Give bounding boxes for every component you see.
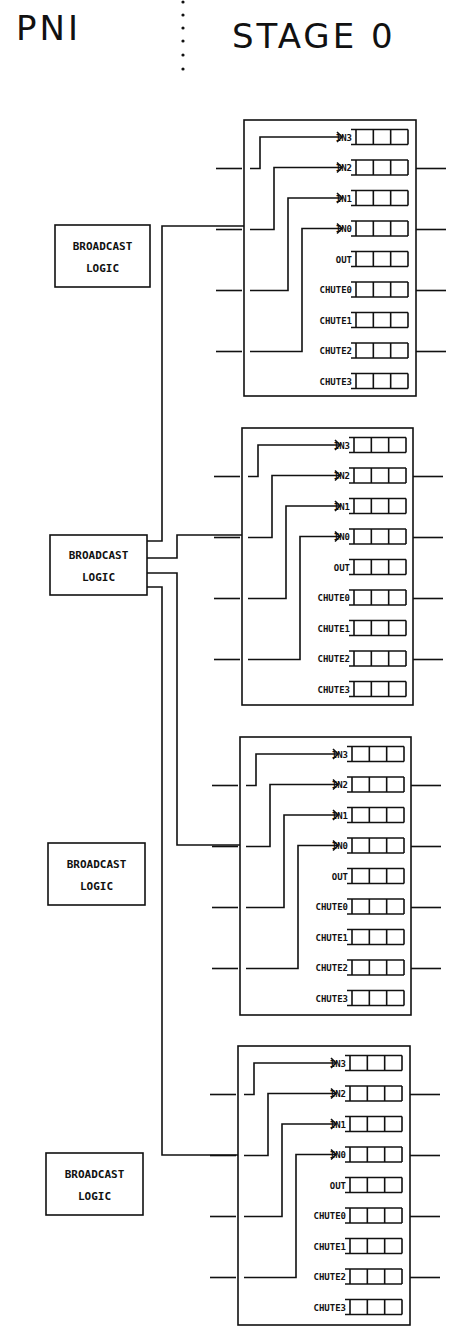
switch-node: IN3IN2IN1IN0OUTCHUTE0CHUTE1CHUTE2CHUTE3	[240, 737, 411, 1015]
broadcast-label-line1: BROADCAST	[73, 240, 133, 253]
queue-out: OUT	[332, 869, 404, 884]
internal-route	[244, 1124, 336, 1217]
broadcast-label-line1: BROADCAST	[67, 858, 127, 871]
queue-in2: IN2	[336, 160, 408, 175]
queue-in0: IN0	[336, 221, 408, 236]
internal-route	[248, 445, 340, 477]
queue-in3: IN3	[330, 1056, 402, 1071]
queue-label: CHUTE0	[315, 902, 348, 912]
queue-label: CHUTE2	[313, 1272, 346, 1282]
broadcast-logic-box: BROADCASTLOGIC	[50, 535, 147, 595]
switch-node: IN3IN2IN1IN0OUTCHUTE0CHUTE1CHUTE2CHUTE3	[244, 120, 416, 396]
queue-chute3: CHUTE3	[317, 682, 406, 697]
switch-node: IN3IN2IN1IN0OUTCHUTE0CHUTE1CHUTE2CHUTE3	[242, 428, 413, 705]
queue-out: OUT	[336, 252, 408, 267]
queue-chute0: CHUTE0	[313, 1208, 402, 1223]
queue-in3: IN3	[336, 130, 408, 145]
queue-chute1: CHUTE1	[319, 313, 408, 328]
internal-route	[248, 506, 340, 599]
queue-chute2: CHUTE2	[317, 651, 406, 666]
queue-label: OUT	[332, 872, 349, 882]
queue-chute2: CHUTE2	[313, 1269, 402, 1284]
queue-in0: IN0	[334, 529, 406, 544]
internal-route	[246, 815, 338, 908]
queue-in2: IN2	[330, 1086, 402, 1101]
queue-label: CHUTE0	[313, 1211, 346, 1221]
network-diagram: BROADCASTLOGICBROADCASTLOGICBROADCASTLOG…	[0, 0, 467, 1338]
queue-chute2: CHUTE2	[319, 343, 408, 358]
queue-chute3: CHUTE3	[313, 1300, 402, 1315]
queue-label: CHUTE2	[317, 654, 350, 664]
queue-label: CHUTE1	[317, 624, 350, 634]
broadcast-label-line2: LOGIC	[80, 880, 113, 893]
queue-label: OUT	[330, 1181, 347, 1191]
queue-out: OUT	[330, 1178, 402, 1193]
queue-in2: IN2	[332, 777, 404, 792]
broadcast-wire-node3	[147, 573, 240, 845]
queue-in1: IN1	[332, 808, 404, 823]
queue-label: CHUTE3	[313, 1303, 346, 1313]
queue-label: CHUTE2	[315, 963, 348, 973]
queue-in2: IN2	[334, 468, 406, 483]
broadcast-logic-box: BROADCASTLOGIC	[46, 1153, 143, 1215]
broadcast-wire-node4	[147, 587, 238, 1155]
queue-in3: IN3	[334, 438, 406, 453]
queue-in0: IN0	[332, 838, 404, 853]
broadcast-label-line2: LOGIC	[86, 262, 119, 275]
broadcast-label-line2: LOGIC	[82, 571, 115, 584]
queue-in1: IN1	[336, 191, 408, 206]
switch-node: IN3IN2IN1IN0OUTCHUTE0CHUTE1CHUTE2CHUTE3	[238, 1046, 410, 1325]
broadcast-label-line1: BROADCAST	[69, 549, 129, 562]
dotted-separator	[181, 0, 184, 70]
queue-chute1: CHUTE1	[315, 930, 404, 945]
queue-chute0: CHUTE0	[317, 590, 406, 605]
internal-route	[250, 137, 342, 169]
queue-chute2: CHUTE2	[315, 960, 404, 975]
queue-label: CHUTE1	[315, 933, 348, 943]
internal-route	[246, 754, 338, 786]
queue-chute0: CHUTE0	[315, 899, 404, 914]
queue-chute1: CHUTE1	[313, 1239, 402, 1254]
queue-label: CHUTE3	[315, 994, 348, 1004]
broadcast-label-line2: LOGIC	[78, 1190, 111, 1203]
queue-out: OUT	[334, 560, 406, 575]
queue-label: CHUTE3	[319, 377, 352, 387]
queue-label: CHUTE1	[319, 316, 352, 326]
queue-label: CHUTE1	[313, 1242, 346, 1252]
queue-chute3: CHUTE3	[319, 374, 408, 389]
queue-in3: IN3	[332, 747, 404, 762]
queue-chute3: CHUTE3	[315, 991, 404, 1006]
queue-label: OUT	[336, 255, 353, 265]
queue-label: CHUTE2	[319, 346, 352, 356]
queue-label: CHUTE0	[319, 285, 352, 295]
broadcast-logic-box: BROADCASTLOGIC	[55, 225, 150, 287]
broadcast-wire-node1	[147, 226, 244, 541]
queue-chute0: CHUTE0	[319, 282, 408, 297]
internal-route	[250, 198, 342, 291]
queue-label: OUT	[334, 563, 351, 573]
queue-label: CHUTE0	[317, 593, 350, 603]
internal-route	[244, 1063, 336, 1095]
queue-label: CHUTE3	[317, 685, 350, 695]
queue-in1: IN1	[334, 499, 406, 514]
broadcast-label-line1: BROADCAST	[65, 1168, 125, 1181]
broadcast-logic-box: BROADCASTLOGIC	[48, 843, 145, 905]
queue-in0: IN0	[330, 1147, 402, 1162]
queue-in1: IN1	[330, 1117, 402, 1132]
queue-chute1: CHUTE1	[317, 621, 406, 636]
